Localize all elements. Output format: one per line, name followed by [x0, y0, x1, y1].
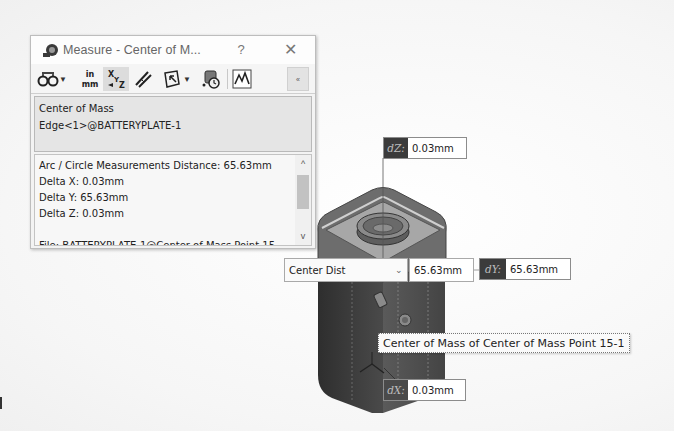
selection-item[interactable]: Center of Mass [39, 100, 307, 117]
arc-circle-measurements-button[interactable]: ▼ [37, 67, 67, 91]
selection-item[interactable]: Edge<1>@BATTERYPLATE-1 [39, 117, 307, 134]
distance-value: 65.63mm [409, 258, 474, 282]
measurement-history-button[interactable] [199, 67, 223, 91]
dz-label: dZ: [384, 138, 408, 158]
dropdown-caret-icon[interactable]: ▼ [59, 75, 67, 84]
result-line-delta-y: Delta Y: 65.63mm [39, 190, 291, 206]
toolbar-separator [227, 69, 228, 89]
scroll-up-icon[interactable]: ^ [295, 157, 311, 171]
measure-icon [43, 43, 59, 58]
units-precision-button[interactable]: in mm [79, 67, 101, 91]
create-sensor-button[interactable] [230, 67, 254, 91]
measure-toolbar: ▼ in mm X Y Z [31, 64, 315, 94]
measure-dialog: Measure - Center of M... ? ✕ ▼ in mm X Y [30, 35, 316, 249]
dropdown-caret-icon[interactable]: ▼ [183, 75, 191, 84]
close-button[interactable]: ✕ [281, 40, 299, 59]
result-line-delta-z: Delta Z: 0.03mm [39, 206, 291, 222]
svg-text:in: in [86, 70, 95, 79]
help-button[interactable]: ? [234, 42, 248, 57]
distance-mode-selected: Center Dist [289, 265, 391, 276]
show-xyz-measurements-button[interactable]: X Y Z [103, 67, 129, 91]
dialog-titlebar[interactable]: Measure - Center of M... ? ✕ [31, 36, 315, 64]
scroll-thumb[interactable] [297, 175, 309, 209]
dy-label: dY: [480, 259, 506, 279]
create-sensor-icon [232, 69, 252, 89]
dx-value: 0.03mm [408, 380, 465, 400]
edge-marker [0, 397, 2, 409]
measurement-history-icon [201, 69, 221, 89]
point-to-point-icon [133, 69, 153, 89]
collapse-results-button[interactable]: « [287, 67, 309, 91]
projected-on-button[interactable]: ▼ [159, 67, 195, 91]
show-xyz-measurements-icon: X Y Z [105, 68, 127, 90]
entity-tooltip: Center of Mass of Center of Mass Point 1… [378, 333, 630, 353]
dialog-title: Measure - Center of M... [63, 43, 201, 57]
results-panel: Arc / Circle Measurements Distance: 65.6… [34, 154, 312, 246]
dz-value: 0.03mm [408, 138, 466, 158]
point-to-point-button[interactable] [131, 67, 155, 91]
arc-circle-measurements-icon [37, 71, 59, 87]
dy-callout: dY: 65.63mm [479, 258, 571, 280]
result-line-delta-x: Delta X: 0.03mm [39, 174, 291, 190]
results-scrollbar[interactable]: ^ v [295, 155, 311, 245]
projected-on-icon [163, 69, 183, 89]
dz-callout: dZ: 0.03mm [383, 137, 467, 159]
distance-mode-dropdown[interactable]: Center Dist ⌄ [284, 258, 408, 282]
dx-callout: dX: 0.03mm [383, 379, 466, 401]
result-line-file: File: BATTERYPLATE-1@Center of Mass Poin… [39, 238, 291, 246]
selection-list[interactable]: Center of Mass Edge<1>@BATTERYPLATE-1 [34, 96, 312, 152]
svg-text:mm: mm [82, 80, 99, 89]
dx-label: dX: [384, 380, 408, 400]
scroll-down-icon[interactable]: v [295, 229, 311, 243]
svg-text:Z: Z [119, 81, 125, 90]
units-precision-icon: in mm [79, 68, 101, 90]
dy-value: 65.63mm [506, 259, 570, 279]
chevron-down-icon[interactable]: ⌄ [391, 265, 407, 275]
result-line-blank [39, 222, 291, 238]
result-line-distance: Arc / Circle Measurements Distance: 65.6… [39, 158, 291, 174]
